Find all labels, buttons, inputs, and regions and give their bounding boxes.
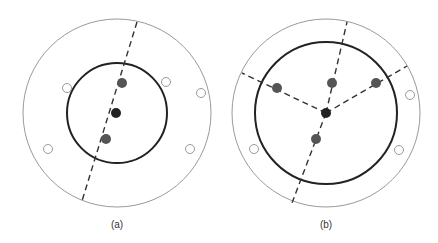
filled-dot xyxy=(117,78,127,88)
filled-dot xyxy=(311,134,321,144)
dashed-line xyxy=(326,66,407,113)
dashed-line xyxy=(82,22,137,201)
open-dot xyxy=(162,78,171,87)
open-dot xyxy=(395,146,404,155)
dashed-line xyxy=(292,113,326,203)
open-dot xyxy=(250,145,259,154)
filled-dot xyxy=(101,134,111,144)
filled-dot xyxy=(272,83,282,93)
diagram-figure: (a) (b) xyxy=(0,0,438,243)
open-dot xyxy=(186,145,195,154)
filled-dot xyxy=(327,78,337,88)
panel-a-label: (a) xyxy=(111,219,123,230)
open-dot xyxy=(44,145,53,154)
filled-dot xyxy=(371,78,381,88)
center-dot xyxy=(321,108,331,118)
open-dot xyxy=(406,91,415,100)
panel-b-label: (b) xyxy=(320,219,332,230)
panel-b xyxy=(232,19,420,207)
center-dot xyxy=(111,108,121,118)
panel-a xyxy=(23,19,211,207)
open-dot xyxy=(197,89,206,98)
dashed-line xyxy=(326,22,347,113)
open-dot xyxy=(63,84,72,93)
